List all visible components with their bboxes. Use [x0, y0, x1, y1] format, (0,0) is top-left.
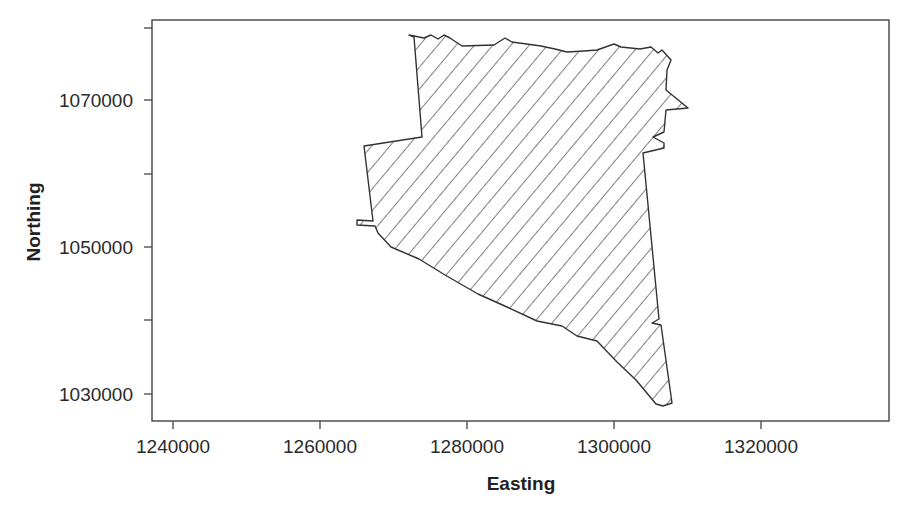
y-tick-label: 1070000: [59, 90, 133, 111]
y-tick-label: 1030000: [59, 384, 133, 405]
y-tick-label: 1050000: [59, 237, 133, 258]
region-polygon: [357, 35, 688, 406]
x-tick-label: 1300000: [577, 436, 651, 457]
x-axis-title: Easting: [487, 473, 556, 494]
x-tick-label: 1280000: [430, 436, 504, 457]
x-tick-label: 1240000: [136, 436, 210, 457]
y-axis: [144, 28, 152, 394]
x-axis: [173, 421, 761, 429]
y-axis-title: Northing: [23, 182, 44, 261]
map-plot: 1070000 1050000 1030000 1240000 1260000 …: [0, 0, 902, 518]
x-tick-label: 1320000: [724, 436, 798, 457]
x-tick-label: 1260000: [283, 436, 357, 457]
